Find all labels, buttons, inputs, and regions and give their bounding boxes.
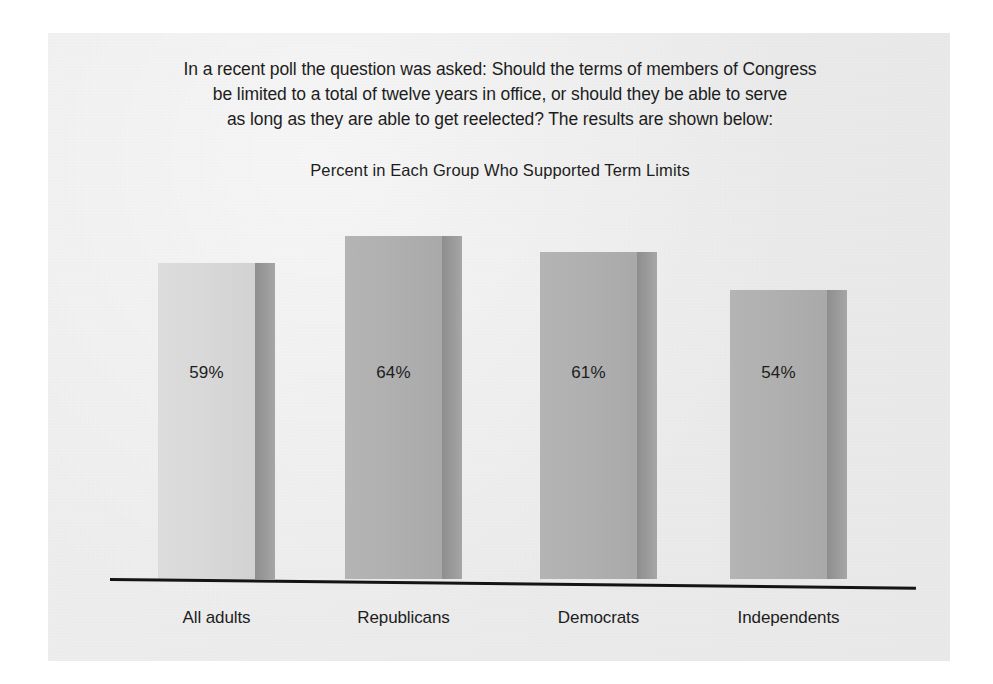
bar-side-3d — [827, 290, 847, 579]
bar-independents: 54% — [730, 290, 847, 579]
bar-democrats: 61% — [540, 252, 657, 579]
x-axis-label-republicans: Republicans — [345, 608, 462, 628]
scanned-page-sheet: In a recent poll the question was asked:… — [48, 33, 950, 661]
bar-face — [345, 236, 442, 579]
bar-value-label: 61% — [540, 363, 637, 383]
x-axis-baseline — [110, 578, 916, 590]
bar-face — [730, 290, 827, 579]
bar-republicans: 64% — [345, 236, 462, 579]
bar-side-3d — [255, 263, 275, 579]
x-axis-label-democrats: Democrats — [540, 608, 657, 628]
bar-side-3d — [637, 252, 657, 579]
bar-face — [540, 252, 637, 579]
bar-value-label: 64% — [345, 363, 442, 383]
bar-face — [158, 263, 255, 579]
x-axis-label-independents: Independents — [730, 608, 847, 628]
bar-value-label: 54% — [730, 363, 827, 383]
bar-chart-plot-area: 59% 64% 61% 54% All adults Republicans D… — [48, 33, 950, 661]
figure-root: In a recent poll the question was asked:… — [0, 0, 993, 684]
bar-all-adults: 59% — [158, 263, 275, 579]
bar-side-3d — [442, 236, 462, 579]
x-axis-label-all-adults: All adults — [158, 608, 275, 628]
bar-value-label: 59% — [158, 363, 255, 383]
